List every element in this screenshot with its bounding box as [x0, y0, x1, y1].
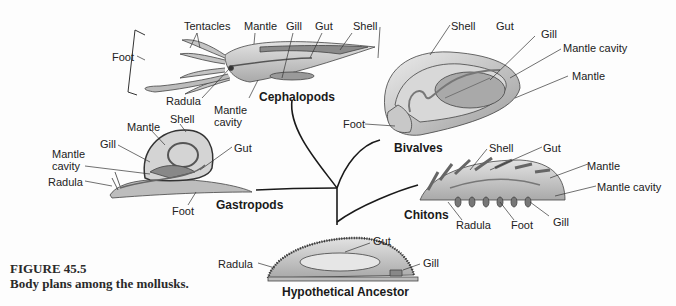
figure-caption: Body plans among the mollusks.: [10, 276, 189, 292]
label-ancestor-radula: Radula: [218, 258, 253, 270]
label-cephalopod-foot: Foot: [112, 51, 134, 63]
label-chiton-gut: Gut: [543, 142, 561, 154]
label-bivalve-foot: Foot: [343, 118, 365, 130]
label-gastropod-gut: Gut: [234, 142, 252, 154]
group-name-chitons: Chitons: [404, 208, 449, 222]
label-gastropod-foot: Foot: [172, 205, 194, 217]
group-name-hypothetical-ancestor: Hypothetical Ancestor: [282, 285, 409, 299]
label-chiton-mantle: Mantle: [587, 160, 620, 172]
label-cephalopod-mantle-cavity-line2: cavity: [214, 116, 242, 128]
label-bivalve-mantle: Mantle: [572, 70, 605, 82]
ancestor-drawing: [268, 238, 418, 281]
label-cephalopod-shell: Shell: [353, 20, 377, 32]
label-bivalve-gut: Gut: [496, 20, 514, 32]
label-cephalopod-gill: Gill: [286, 20, 302, 32]
label-ancestor-gut: Gut: [373, 235, 391, 247]
label-chiton-shell: Shell: [489, 142, 513, 154]
label-cephalopod-gut: Gut: [315, 20, 333, 32]
label-chiton-foot: Foot: [511, 219, 533, 231]
group-name-gastropods: Gastropods: [216, 198, 283, 212]
label-bivalve-mantle-cavity: Mantle cavity: [563, 42, 627, 54]
label-cephalopod-tentacles: Tentacles: [184, 20, 230, 32]
group-name-cephalopods: Cephalopods: [259, 90, 335, 104]
figure-number: FIGURE 45.5: [10, 261, 87, 277]
label-cephalopod-mantle-cavity-line1: Mantle: [214, 104, 247, 116]
label-cephalopod-mantle: Mantle: [244, 20, 277, 32]
label-gastropod-mantle-cavity-line2: cavity: [52, 160, 80, 172]
label-gastropod-mantle-cavity-line1: Mantle: [52, 148, 85, 160]
label-gastropod-shell: Shell: [170, 113, 194, 125]
bivalve-drawing: [384, 52, 520, 135]
cephalopod-drawing: [145, 40, 375, 94]
gastropod-drawing: [110, 130, 252, 198]
label-chiton-radula: Radula: [456, 219, 491, 231]
label-gastropod-gill: Gill: [100, 138, 116, 150]
chiton-drawing: [420, 158, 565, 207]
label-gastropod-mantle: Mantle: [127, 121, 160, 133]
label-cephalopod-radula: Radula: [166, 95, 201, 107]
label-bivalve-gill: Gill: [541, 28, 557, 40]
label-ancestor-gill: Gill: [423, 257, 439, 269]
label-bivalve-shell: Shell: [451, 20, 475, 32]
label-gastropod-radula: Radula: [48, 176, 83, 188]
label-chiton-mantle-cavity: Mantle cavity: [597, 181, 661, 193]
mollusk-body-plans-figure: Foot Tentacles Mantle Gill Gut Shell Rad…: [0, 0, 676, 306]
group-name-bivalves: Bivalves: [394, 141, 443, 155]
label-chiton-gill: Gill: [553, 216, 569, 228]
